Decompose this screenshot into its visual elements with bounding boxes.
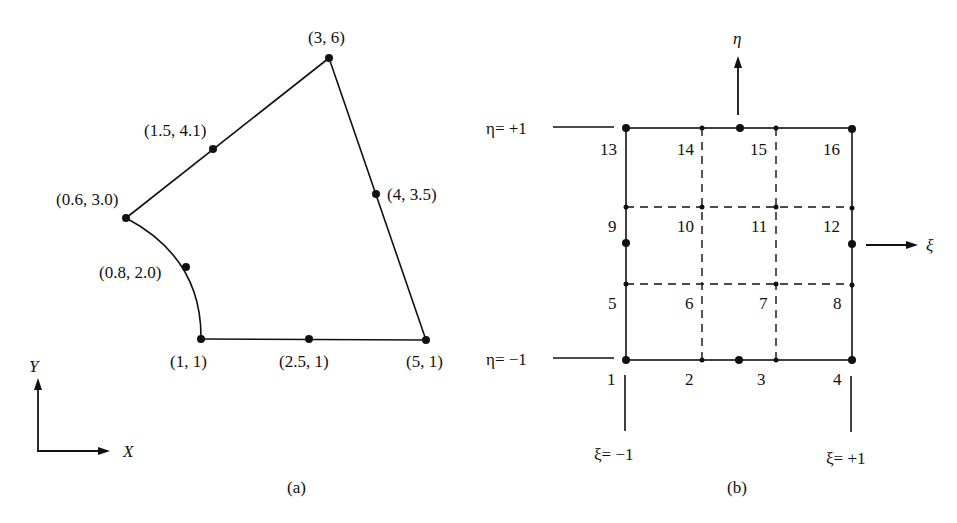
node-label: (3, 6) <box>308 28 345 47</box>
eta-axis-label: η <box>733 29 741 48</box>
node-number: 2 <box>685 370 694 389</box>
edge-bottom <box>201 339 426 340</box>
arrowhead-icon <box>34 378 42 390</box>
node-dot <box>848 356 856 364</box>
node-number: 16 <box>823 140 840 159</box>
node-label: (1.5, 4.1) <box>144 121 206 140</box>
node-label: (5, 1) <box>406 352 443 371</box>
node-dot-small <box>700 126 705 131</box>
figure-b: 1 2 3 4 5 6 7 8 9 10 11 12 13 14 15 16 η… <box>486 29 934 497</box>
node-label: (1, 1) <box>170 352 207 371</box>
node-number: 11 <box>751 217 767 236</box>
node-number: 4 <box>833 370 842 389</box>
node-dot <box>325 54 333 62</box>
arrowhead-icon <box>906 241 918 249</box>
node-number: 1 <box>607 370 616 389</box>
node-dot-small <box>850 206 855 211</box>
node-number: 9 <box>608 217 617 236</box>
node-dot <box>305 335 313 343</box>
node-dot <box>622 239 630 247</box>
node-number: 7 <box>759 294 768 313</box>
node-label: (4, 3.5) <box>387 185 437 204</box>
node-number: 12 <box>823 217 840 236</box>
element-boundary <box>626 128 852 360</box>
node-dot <box>622 356 630 364</box>
node-dot-small <box>850 283 855 288</box>
boundary-label-xi-plus: ξ= +1 <box>826 449 866 468</box>
arrowhead-icon <box>734 56 742 68</box>
node-number: 10 <box>677 217 694 236</box>
boundary-label-eta-minus: η= −1 <box>486 350 527 369</box>
node-dot <box>736 124 744 132</box>
node-number: 13 <box>600 140 617 159</box>
node-dot-small <box>700 205 705 210</box>
node-dot-small <box>774 358 779 363</box>
node-number: 15 <box>750 140 767 159</box>
caption-a: (a) <box>287 478 306 497</box>
node-number: 8 <box>833 294 842 313</box>
node-number: 3 <box>757 370 766 389</box>
node-dot-small <box>774 205 779 210</box>
y-axis-label: Y <box>29 357 40 376</box>
caption-b: (b) <box>727 478 747 497</box>
node-dot <box>622 124 630 132</box>
figure-canvas: (1, 1) (2.5, 1) (5, 1) (4, 3.5) (3, 6) (… <box>0 0 957 523</box>
x-axis-label: X <box>122 442 134 461</box>
node-dot-small <box>774 126 779 131</box>
node-dot <box>197 335 205 343</box>
node-dot <box>372 190 380 198</box>
boundary-label-eta-plus: η= +1 <box>486 119 527 138</box>
node-dot-small <box>624 282 629 287</box>
node-number: 6 <box>685 294 694 313</box>
node-number: 14 <box>677 140 695 159</box>
boundary-label-xi-minus: ξ= −1 <box>594 445 634 464</box>
node-dot <box>848 240 856 248</box>
node-label: (0.6, 3.0) <box>56 190 118 209</box>
node-dot-small <box>774 282 779 287</box>
node-dot-small <box>700 358 705 363</box>
figure-a: (1, 1) (2.5, 1) (5, 1) (4, 3.5) (3, 6) (… <box>29 28 443 497</box>
node-dot <box>182 263 190 271</box>
node-label: (2.5, 1) <box>279 352 329 371</box>
arrowhead-icon <box>98 447 110 455</box>
node-dot <box>735 356 743 364</box>
node-label: (0.8, 2.0) <box>99 263 161 282</box>
node-dot <box>122 214 130 222</box>
node-number: 5 <box>608 294 617 313</box>
node-dot <box>209 145 217 153</box>
node-dot <box>848 125 856 133</box>
node-dot-small <box>624 205 629 210</box>
xi-axis-label: ξ <box>926 236 934 255</box>
xy-axes: Y X <box>29 357 134 461</box>
node-dot <box>422 336 430 344</box>
